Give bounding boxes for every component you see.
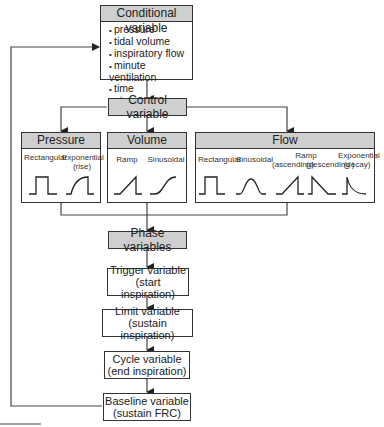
cycle-variable-subtitle: (end inspiration) [108,365,187,377]
volume-box: Volume Ramp Sinusoidal [107,132,187,203]
limit-variable-subtitle: (sustain inspiration) [103,317,192,341]
wave-label-exponential: Exponential [338,151,376,160]
wave-label-exponential-rise: Exponential(rise) [62,153,102,171]
control-variable-box: Control variable [108,98,187,116]
phase-variables-title: Phase variables [109,226,186,254]
rectangular-wave-icon [199,174,233,196]
wave-label-rectangular: Rectangular [198,155,236,164]
ramp-descending-wave-icon [308,174,342,196]
rectangular-wave-icon [29,174,63,196]
sinusoidal-wave-icon [150,174,184,196]
control-variable-title: Control variable [109,93,186,121]
limit-variable-box: Limit variable (sustain inspiration) [102,309,193,337]
wave-label-sinusoidal: Sinusoidal [146,155,186,164]
wave-label-decay: (decay) [338,160,376,169]
baseline-variable-box: Baseline variable (sustain FRC) [103,393,191,421]
wave-label-ramp-descending: (descending ) [306,160,342,169]
wave-label-ramp: Ramp [276,151,336,160]
exponential-decay-wave-icon [342,174,376,196]
wave-label-ramp: Ramp [112,155,142,164]
baseline-variable-subtitle: (sustain FRC) [113,407,181,419]
cycle-variable-title: Cycle variable [112,353,181,365]
cycle-variable-box: Cycle variable (end inspiration) [104,351,190,379]
limit-variable-title: Limit variable [115,305,180,317]
flow-box: Flow Rectangular Sinusoidal Ramp (ascend… [195,132,375,203]
wave-label-sinusoidal: Sinusoidal [236,155,270,164]
flow-title: Flow [196,133,374,149]
pressure-box: Pressure Rectangular Exponential(rise) [21,132,101,203]
trigger-variable-subtitle: (start inspiration) [108,276,188,300]
volume-title: Volume [108,133,186,149]
trigger-variable-box: Trigger variable (start inspiration) [107,268,189,296]
conditional-variable-title: Conditional variable [101,6,192,22]
pressure-title: Pressure [22,133,100,149]
phase-variables-box: Phase variables [108,231,187,249]
wave-label-ramp-ascending: (ascending) [272,160,306,169]
wave-label-rectangular: Rectangular [24,153,62,162]
exponential-rise-wave-icon [66,174,100,196]
ramp-ascending-wave-icon [276,174,310,196]
baseline-variable-title: Baseline variable [105,395,189,407]
list-item: minute ventilation [109,60,192,83]
sinusoidal-wave-icon [236,174,270,196]
trigger-variable-title: Trigger variable [110,264,186,276]
conditional-variable-box: Conditional variable pressure tidal volu… [100,5,193,80]
ramp-wave-icon [114,174,148,196]
